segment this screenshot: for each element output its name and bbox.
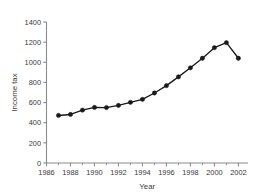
y-axis-tick-label: 200 <box>29 139 41 148</box>
data-point-marker <box>56 113 60 117</box>
data-point-marker <box>152 91 156 95</box>
income-tax-line-chart: 0200400600800100012001400 19861988199019… <box>0 0 267 196</box>
data-point-marker <box>164 84 168 88</box>
x-axis-tick-label: 1998 <box>182 168 198 177</box>
data-point-marker <box>68 112 72 116</box>
data-point-marker <box>188 66 192 70</box>
x-axis-tick-label: 1986 <box>38 168 54 177</box>
data-point-marker <box>80 108 84 112</box>
y-axis-tick-label: 1200 <box>25 38 41 47</box>
y-axis-tick-label: 0 <box>37 159 41 168</box>
y-axis-tick-label: 600 <box>29 98 41 107</box>
x-axis-tick-label: 2002 <box>230 168 246 177</box>
x-axis-tick-label: 1988 <box>62 168 78 177</box>
data-point-marker <box>128 100 132 104</box>
data-point-marker <box>92 105 96 109</box>
y-axis-tick-label: 1000 <box>25 58 41 67</box>
chart-canvas: 0200400600800100012001400 19861988199019… <box>0 0 267 196</box>
x-axis-tick-label: 1994 <box>134 168 150 177</box>
y-axis-tick-label: 800 <box>29 78 41 87</box>
x-axis-tick-label: 2000 <box>206 168 222 177</box>
y-axis-tick-label: 400 <box>29 118 41 127</box>
data-point-marker <box>176 75 180 79</box>
y-axis-tick-label: 1400 <box>25 18 41 27</box>
data-point-marker <box>236 56 240 60</box>
data-point-marker <box>104 105 108 109</box>
y-axis-title: Income tax <box>10 73 19 111</box>
x-axis-tick-label: 1996 <box>158 168 174 177</box>
x-axis-tick-label: 1990 <box>86 168 102 177</box>
data-point-marker <box>140 97 144 101</box>
data-point-marker <box>224 41 228 45</box>
x-axis-tick-label: 1992 <box>110 168 126 177</box>
x-axis-title: Year <box>139 182 155 191</box>
data-point-marker <box>200 56 204 60</box>
data-point-marker <box>212 46 216 50</box>
data-point-marker <box>116 103 120 107</box>
